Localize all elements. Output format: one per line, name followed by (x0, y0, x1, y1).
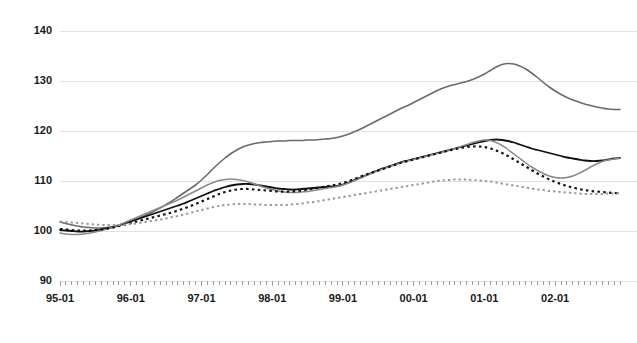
y-axis-tick-label: 110 (22, 175, 52, 186)
series-line-1 (60, 63, 620, 228)
y-axis-tick-label: 140 (22, 25, 52, 36)
x-axis-tick-label: 96-01 (101, 293, 161, 304)
y-axis-tick-label: 100 (22, 225, 52, 236)
x-axis-tick-label: 00-01 (384, 293, 444, 304)
x-axis-tick-label: 98-01 (242, 293, 302, 304)
x-axis-tick-label: 02-01 (525, 293, 585, 304)
line-chart: 90100110120130140 95-0196-0197-0198-0199… (0, 0, 637, 343)
y-axis-tick-label: 130 (22, 75, 52, 86)
x-axis-tick-label: 95-01 (30, 293, 90, 304)
x-axis-tick-label: 01-01 (454, 293, 514, 304)
y-axis-tick-label: 120 (22, 125, 52, 136)
x-axis-tick-label: 97-01 (171, 293, 231, 304)
x-axis-tick-label: 99-01 (313, 293, 373, 304)
y-axis-tick-label: 90 (22, 275, 52, 286)
series-line-3 (60, 140, 620, 235)
